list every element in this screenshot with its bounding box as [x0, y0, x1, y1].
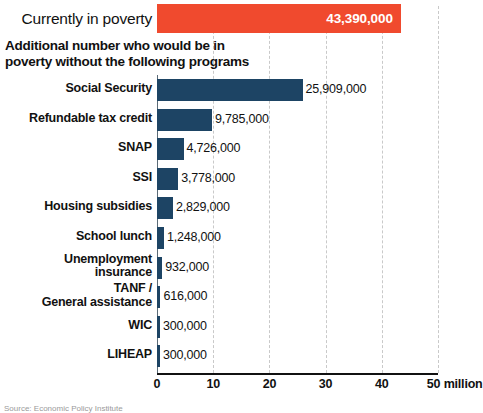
bar: [157, 79, 303, 101]
bar-category-label: Housing subsidies: [0, 200, 152, 214]
x-tick-label: 10: [206, 377, 220, 391]
bar-value-label: 3,778,000: [181, 171, 235, 185]
bar-category-label-line: General assistance: [0, 296, 152, 310]
bar: [157, 257, 162, 279]
bar-category-label-line: Social Security: [0, 82, 152, 96]
bar-row: SNAP4,726,000: [0, 137, 467, 167]
bar-category-label-line: LIHEAP: [0, 348, 152, 362]
bar-category-label: School lunch: [0, 230, 152, 244]
bar-category-label-line: SSI: [0, 171, 152, 185]
bar-value-label: 300,000: [163, 348, 207, 362]
headline-value-label: 43,390,000: [326, 4, 393, 33]
bar-value-label: 4,726,000: [187, 141, 241, 155]
bar-row: SSI3,778,000: [0, 167, 467, 197]
bar-category-label: LIHEAP: [0, 348, 152, 362]
bar: [157, 227, 164, 249]
bar-category-label-line: SNAP: [0, 141, 152, 155]
source-note: Source: Economic Policy Institute: [4, 404, 123, 413]
bar-value-label: 9,785,000: [215, 112, 269, 126]
bar-row: Refundable tax credit9,785,000: [0, 108, 467, 138]
subtitle-line-2: poverty without the following programs: [5, 54, 305, 70]
bar-value-label: 1,248,000: [167, 230, 221, 244]
bar-value-label: 932,000: [165, 260, 209, 274]
bar-category-label: TANF /General assistance: [0, 282, 152, 309]
bar-row: TANF /General assistance616,000: [0, 285, 467, 315]
bar-category-label: Refundable tax credit: [0, 112, 152, 126]
bar-category-label-line: Housing subsidies: [0, 200, 152, 214]
bar-row: Housing subsidies2,829,000: [0, 196, 467, 226]
bar-category-label: SSI: [0, 171, 152, 185]
bar-value-label: 25,909,000: [306, 82, 367, 96]
bar-category-label: WIC: [0, 319, 152, 333]
bar-value-label: 2,829,000: [176, 200, 230, 214]
x-tick-label: 50 million: [427, 377, 483, 391]
bar-category-label-line: School lunch: [0, 230, 152, 244]
subtitle-line-1: Additional number who would be in: [5, 38, 305, 54]
bar: [157, 316, 160, 338]
bar-category-label-line: insurance: [0, 266, 152, 280]
headline-row: Currently in poverty 43,390,000: [0, 4, 467, 33]
bar-value-label: 300,000: [163, 319, 207, 333]
bar-category-label: SNAP: [0, 141, 152, 155]
bar: [157, 286, 160, 308]
bar: [157, 345, 160, 367]
bar: [157, 197, 173, 219]
bar-value-label: 616,000: [163, 289, 207, 303]
x-tick-label: 20: [263, 377, 277, 391]
bar-category-label: Social Security: [0, 82, 152, 96]
x-tick-label: 40: [375, 377, 389, 391]
x-tick-label: 0: [154, 377, 161, 391]
bar-category-label: Unemploymentinsurance: [0, 253, 152, 280]
bar-category-label-line: WIC: [0, 319, 152, 333]
bar-row: LIHEAP300,000: [0, 344, 467, 374]
bar-category-label-line: TANF /: [0, 282, 152, 296]
headline-label: Currently in poverty: [0, 4, 152, 33]
x-tick-label: 30: [319, 377, 333, 391]
bar: [157, 109, 212, 131]
bar-category-label-line: Refundable tax credit: [0, 112, 152, 126]
bar-row: Social Security25,909,000: [0, 78, 467, 108]
chart-subtitle: Additional number who would be in povert…: [5, 38, 305, 70]
bar: [157, 138, 184, 160]
bar: [157, 168, 178, 190]
bar-row: WIC300,000: [0, 315, 467, 345]
bar-category-label-line: Unemployment: [0, 253, 152, 267]
bar-row: Unemploymentinsurance932,000: [0, 256, 467, 286]
